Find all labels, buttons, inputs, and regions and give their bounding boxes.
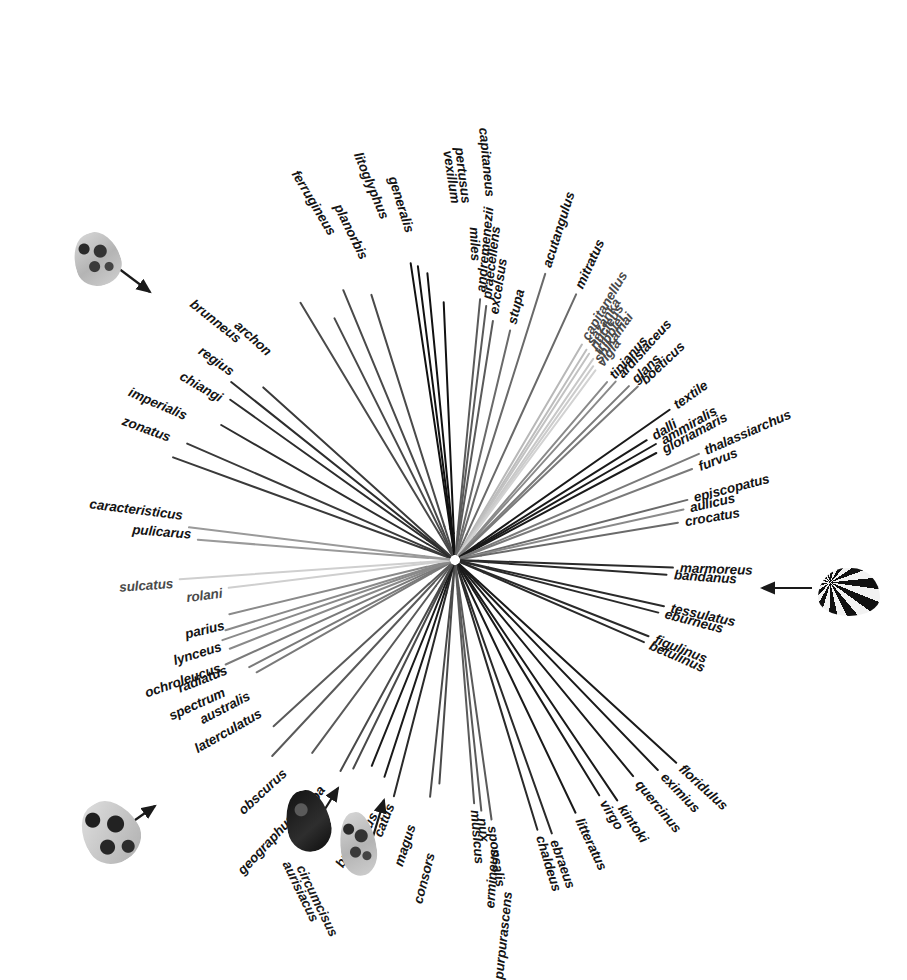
branch-line [458,594,474,803]
branch-line [343,290,444,534]
tip-label: sulcatus [118,577,173,594]
branch-stem [454,533,455,554]
branch-line [458,584,482,810]
branch-line [257,573,432,672]
branch-line [231,382,435,544]
arrow-to-brunneus [118,268,150,292]
branch-line [274,584,430,727]
tip-label: musicus [468,810,486,865]
branch-line [458,299,480,531]
branch-line [484,509,683,553]
branch-line [470,578,633,776]
branch-line [473,366,593,534]
branch-line [226,570,425,631]
branch-line [418,266,451,530]
marmoreus-shell [818,568,880,616]
branch-line [465,581,576,813]
branch-line [473,589,599,795]
branch-line [229,563,428,588]
branch-line [187,444,429,549]
